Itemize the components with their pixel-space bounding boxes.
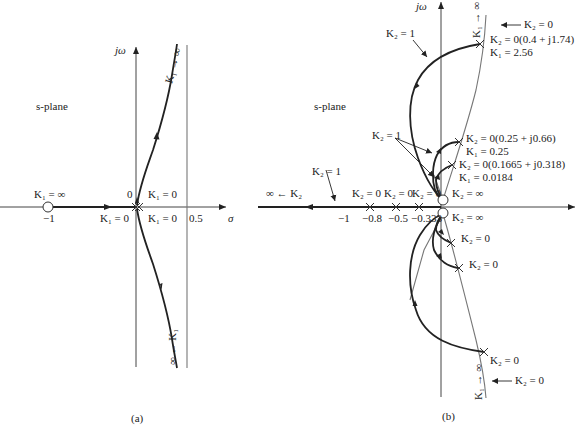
tick-origin: 0 bbox=[127, 188, 133, 200]
caption-a: (a) bbox=[131, 412, 144, 425]
caption-b: (b) bbox=[442, 410, 455, 423]
pt1-pole-label: K₂ = 0(0.4 + j1.74) bbox=[490, 33, 574, 46]
k1-inf-top-label: K₁ → ∞ bbox=[470, 2, 482, 38]
panel-a: jω σ s-plane K₁ = ∞ −1 0 K₁ = 0 K₁ = 0 K… bbox=[0, 44, 234, 425]
lower-pole-1-label: K₂ = 0 bbox=[461, 232, 490, 244]
imag-axis-label-b: jω bbox=[414, 0, 427, 12]
pt2-k1-label: K₁ = 0.25 bbox=[466, 145, 509, 157]
k1-zero-upper-label: K₁ = 0 bbox=[148, 188, 177, 200]
k2-inf-upper-label: K₂ = ∞ bbox=[452, 187, 483, 199]
k2-zero-p05-label: K₂ = 0 bbox=[384, 187, 413, 199]
tick-asymptote: 0.5 bbox=[189, 212, 203, 224]
k2-zero-arrow-bottom-label: K₂ = 0 bbox=[515, 374, 544, 386]
arrow-left-icon bbox=[104, 204, 112, 210]
upper-branch-label: K₁ → ∞ bbox=[162, 46, 183, 84]
tick-p0333: −0.333 bbox=[411, 212, 442, 224]
s-plane-label: s-plane bbox=[36, 100, 68, 112]
tick-p05: −0.5 bbox=[388, 212, 408, 224]
k2-zero-p08-label: K₂ = 0 bbox=[352, 187, 381, 199]
k2-inf-lower-label: K₂ = ∞ bbox=[452, 211, 483, 223]
real-axis-label: σ bbox=[228, 212, 234, 224]
k2-zero-arrow-top-label: K₂ = 0 bbox=[524, 18, 553, 30]
lower-branch-label: ∞ ← K₁ bbox=[166, 329, 178, 365]
arrow-left-icon bbox=[305, 204, 313, 210]
k1-zero-left-label: K₁ = 0 bbox=[100, 212, 129, 224]
pole-marker-lower-1 bbox=[447, 239, 455, 247]
pt3-pole-label: K₂ = 0(0.1665 + j0.318) bbox=[459, 158, 565, 171]
lower-pole-2-label: K₂ = 0 bbox=[469, 258, 498, 270]
k2-one-top-label: K₂ = 1 bbox=[386, 27, 415, 39]
pt1-k1-label: K₁ = 2.56 bbox=[490, 46, 533, 58]
lower-pole-3-label: K₂ = 0 bbox=[490, 354, 519, 366]
panel-b: jω s-plane K₂ = 1 K₂ = 1 K₂ = 1 ∞ ← K₂ K… bbox=[258, 0, 575, 423]
tick-minus-one: −1 bbox=[43, 212, 55, 224]
tick-p08: −0.8 bbox=[362, 212, 382, 224]
zero-marker bbox=[43, 202, 53, 212]
tick-minus-one-b: −1 bbox=[338, 212, 350, 224]
imag-axis-label: jω bbox=[113, 44, 126, 56]
root-locus-figure: jω σ s-plane K₁ = ∞ −1 0 K₁ = 0 K₁ = 0 K… bbox=[0, 0, 575, 433]
k2-one-axis-label: K₂ = 1 bbox=[312, 165, 341, 177]
s-plane-label-b: s-plane bbox=[314, 100, 346, 112]
pointer-k2-one-top bbox=[413, 40, 427, 57]
k2-inf-left-label: ∞ ← K₂ bbox=[266, 187, 302, 199]
k2-zero-p0333-label: K₂ = 0 bbox=[412, 187, 441, 199]
pole-marker-upper-3 bbox=[448, 161, 456, 169]
pt2-pole-label: K₂ = 0(0.25 + j0.66) bbox=[466, 132, 556, 145]
zero-k-inf-label: K₁ = ∞ bbox=[34, 188, 65, 200]
k1-zero-lower-label: K₁ = 0 bbox=[148, 212, 177, 224]
k1-inf-bottom-label: K₁ → ∞ bbox=[472, 364, 484, 400]
pt3-k1-label: K₁ = 0.0184 bbox=[459, 171, 513, 183]
k2-one-mid-label: K₂ = 1 bbox=[372, 129, 401, 141]
